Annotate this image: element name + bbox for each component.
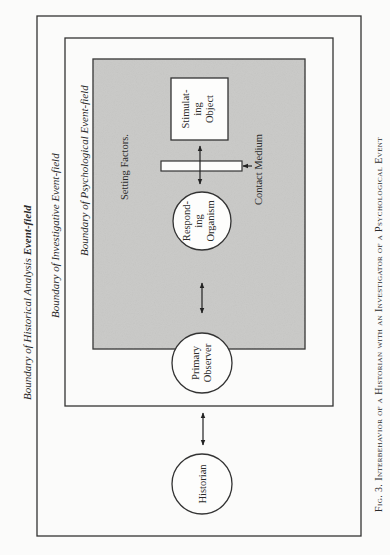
- svg-text:Object: Object: [204, 95, 215, 123]
- primary-observer-label: Primary Observer: [190, 343, 213, 382]
- contact-medium-bar: [161, 161, 242, 171]
- svg-text:Observer: Observer: [202, 343, 213, 382]
- investigative-boundary-label: Boundary of Investigative Event-field: [49, 153, 61, 318]
- svg-text:ing: ing: [193, 214, 204, 228]
- interbehavior-diagram: Boundary of Historical Analysis Event-fi…: [0, 0, 390, 555]
- figure-caption-text: Interbehavior of a Historian with an Inv…: [373, 137, 384, 481]
- historical-boundary-label: Boundary of Historical Analysis Event-fi…: [21, 205, 33, 400]
- svg-text:Organism: Organism: [205, 200, 216, 241]
- psychological-boundary-label: Boundary of Psychological Event-field: [78, 85, 90, 256]
- svg-text:ing: ing: [192, 102, 203, 116]
- figure-page: Boundary of Historical Analysis Event-fi…: [0, 0, 390, 555]
- historian-label: Historian: [197, 464, 208, 504]
- figure-caption: Fig. 3. Interbehavior of a Historian wit…: [373, 137, 384, 512]
- svg-text:Respond-: Respond-: [181, 200, 192, 241]
- figure-number: Fig. 3.: [373, 484, 384, 512]
- svg-text:Stimulat-: Stimulat-: [180, 89, 191, 129]
- svg-text:Primary: Primary: [190, 345, 201, 380]
- setting-factors-label: Setting Factors.: [119, 134, 130, 200]
- contact-medium-label: Contact Medium: [253, 134, 264, 205]
